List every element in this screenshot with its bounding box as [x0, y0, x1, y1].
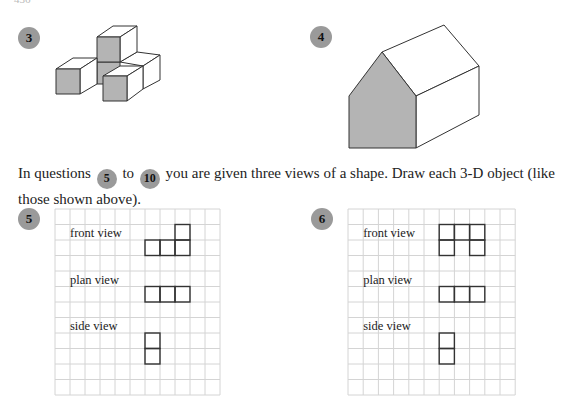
front-view-cell: [454, 225, 469, 241]
front-view-label: front view: [70, 226, 122, 240]
side-view-label: side view: [363, 319, 411, 333]
front-view-cell: [175, 225, 190, 241]
side-view-cell: [439, 333, 454, 349]
plan-view-label: plan view: [363, 273, 412, 287]
plan-view-cell: [439, 287, 454, 303]
front-view-cell: [470, 225, 485, 241]
question-5-badge: 5: [18, 208, 40, 230]
question-6-badge: 6: [311, 208, 333, 230]
front-view-cell: [175, 240, 190, 256]
side-view-cell: [145, 333, 160, 349]
side-view-label: side view: [70, 319, 118, 333]
plan-view-cell: [160, 287, 175, 303]
cube-front-face: [103, 76, 127, 101]
house-figure: [349, 25, 479, 148]
plan-view-cell: [470, 287, 485, 303]
plan-view-cell: [175, 287, 190, 303]
instructions-middle: to: [122, 165, 134, 181]
front-view-cell: [470, 240, 485, 256]
front-view-cell: [439, 240, 454, 256]
front-view-cell: [439, 225, 454, 241]
plan-view-label: plan view: [70, 273, 119, 287]
front-view-label: front view: [363, 226, 415, 240]
plan-view-cell: [454, 287, 469, 303]
instructions-text: In questions 5 to 10 you are given three…: [18, 163, 558, 210]
front-view-cell: [160, 240, 175, 256]
cube-front-face: [97, 37, 120, 62]
instructions-suffix: you are given three views of a shape. Dr…: [18, 165, 555, 207]
plan-view-cell: [145, 287, 160, 303]
instructions-prefix: In questions: [18, 165, 91, 181]
side-view-cell: [145, 349, 160, 365]
cube-front-face: [56, 69, 80, 94]
side-view-cell: [439, 349, 454, 365]
question-6-grid: front viewplan viewside view: [348, 209, 515, 395]
front-view-cell: [145, 240, 160, 256]
question-10-inline-badge: 10: [140, 169, 160, 189]
question-5-inline-badge: 5: [97, 169, 117, 189]
cube-arrangement-figure: [56, 26, 160, 101]
question-5-grid: front viewplan viewside view: [55, 209, 220, 395]
